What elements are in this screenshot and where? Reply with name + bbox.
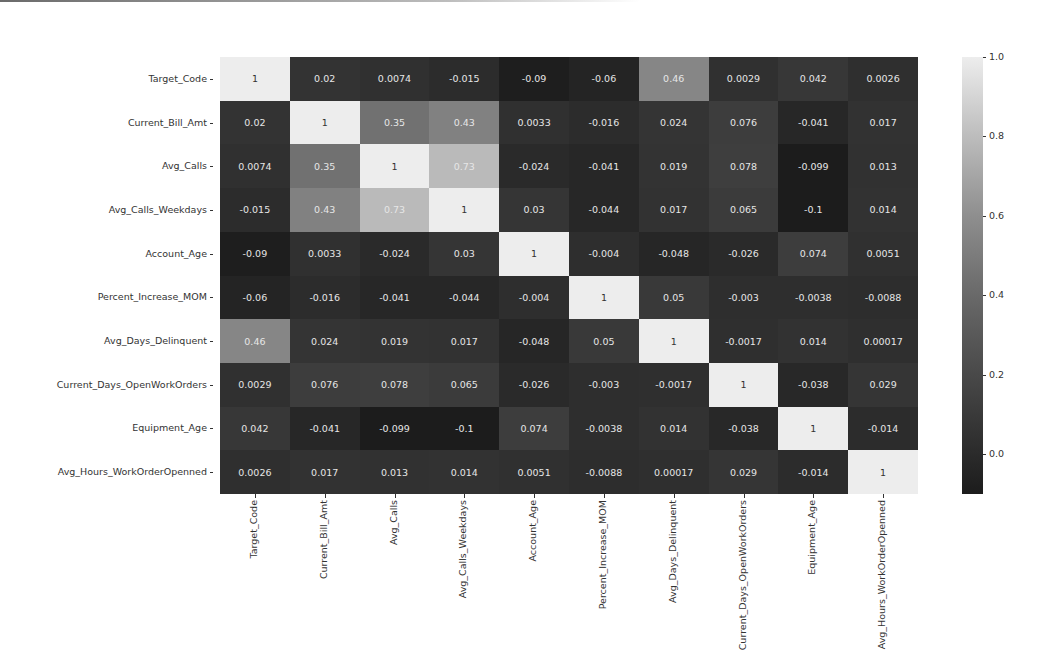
heatmap-cell: -0.014 xyxy=(848,407,918,451)
heatmap-cell: -0.004 xyxy=(499,276,569,320)
x-tick-label: Equipment_Age xyxy=(806,500,817,575)
heatmap-cell: 1 xyxy=(220,57,290,101)
heatmap-cell: 0.014 xyxy=(778,319,848,363)
heatmap-cell: 0.46 xyxy=(639,57,709,101)
heatmap-cell: 0.014 xyxy=(639,407,709,451)
heatmap-cell: 0.029 xyxy=(709,450,779,494)
heatmap-cell: -0.003 xyxy=(709,276,779,320)
x-tick-label: Current_Bill_Amt xyxy=(318,500,329,579)
heatmap-cell: 0.0033 xyxy=(499,101,569,145)
heatmap-cell: 0.078 xyxy=(360,363,430,407)
heatmap-cell: 1 xyxy=(778,407,848,451)
heatmap-cell: 0.0033 xyxy=(290,232,360,276)
heatmap-cell: -0.038 xyxy=(778,363,848,407)
x-axis-labels: Target_CodeCurrent_Bill_AmtAvg_CallsAvg_… xyxy=(220,494,918,671)
colorbar-tick-label: 0.4 xyxy=(983,289,1004,301)
heatmap-cell: 0.05 xyxy=(639,276,709,320)
heatmap-cell: -0.0017 xyxy=(639,363,709,407)
heatmap-cell: 0.065 xyxy=(709,188,779,232)
heatmap-cell: 1 xyxy=(569,276,639,320)
heatmap-cell: 0.014 xyxy=(429,450,499,494)
heatmap-cell: 0.076 xyxy=(290,363,360,407)
heatmap-cell: 0.0051 xyxy=(848,232,918,276)
heatmap-cell: 0.024 xyxy=(639,101,709,145)
heatmap-cell: 0.042 xyxy=(220,407,290,451)
heatmap-cell: -0.09 xyxy=(499,57,569,101)
x-tick-label: Avg_Hours_WorkOrderOpenned xyxy=(876,500,887,649)
heatmap-cell: -0.1 xyxy=(778,188,848,232)
heatmap-cell: 1 xyxy=(639,319,709,363)
top-border-line xyxy=(0,0,640,2)
heatmap-cell: -0.024 xyxy=(499,144,569,188)
heatmap-cell: 0.017 xyxy=(429,319,499,363)
heatmap-cell: 0.042 xyxy=(778,57,848,101)
y-tick-label: Current_Bill_Amt xyxy=(128,116,213,130)
heatmap-cell: -0.041 xyxy=(360,276,430,320)
heatmap-cell: -0.016 xyxy=(290,276,360,320)
heatmap-cell: 0.0051 xyxy=(499,450,569,494)
heatmap-cell: -0.044 xyxy=(429,276,499,320)
x-tick-label: Current_Days_OpenWorkOrders xyxy=(737,500,748,650)
tick-mark xyxy=(325,494,326,498)
heatmap-cell: 0.074 xyxy=(778,232,848,276)
heatmap-cell: 0.35 xyxy=(360,101,430,145)
heatmap-cell: -0.026 xyxy=(709,232,779,276)
heatmap-cell: -0.06 xyxy=(569,57,639,101)
correlation-heatmap: 10.020.0074-0.015-0.09-0.060.460.00290.0… xyxy=(220,57,918,494)
tick-mark xyxy=(604,494,605,498)
x-tick-label: Avg_Calls xyxy=(388,500,399,545)
tick-mark xyxy=(674,494,675,498)
y-tick-label: Avg_Days_Delinquent xyxy=(104,334,213,348)
heatmap-cell: 0.074 xyxy=(499,407,569,451)
heatmap-cell: -0.041 xyxy=(290,407,360,451)
heatmap-cell: 0.019 xyxy=(639,144,709,188)
heatmap-cell: 0.05 xyxy=(569,319,639,363)
heatmap-cell: -0.06 xyxy=(220,276,290,320)
heatmap-cell: 0.076 xyxy=(709,101,779,145)
heatmap-cell: -0.041 xyxy=(569,144,639,188)
heatmap-cell: -0.041 xyxy=(778,101,848,145)
heatmap-cell: -0.099 xyxy=(360,407,430,451)
tick-mark xyxy=(813,494,814,498)
heatmap-cell: 0.013 xyxy=(360,450,430,494)
heatmap-cell: -0.0038 xyxy=(569,407,639,451)
heatmap-cell: 0.017 xyxy=(848,101,918,145)
y-tick-label: Avg_Calls_Weekdays xyxy=(109,203,213,217)
colorbar xyxy=(962,57,983,494)
y-tick-label: Avg_Calls xyxy=(162,159,213,173)
heatmap-cell: 0.43 xyxy=(290,188,360,232)
heatmap-cell: 0.43 xyxy=(429,101,499,145)
heatmap-cell: 0.017 xyxy=(639,188,709,232)
heatmap-cell: 0.0029 xyxy=(220,363,290,407)
heatmap-cell: -0.026 xyxy=(499,363,569,407)
heatmap-cell: 0.078 xyxy=(709,144,779,188)
colorbar-tick-label: 1.0 xyxy=(983,51,1004,63)
heatmap-cell: 0.35 xyxy=(290,144,360,188)
heatmap-cell: 0.029 xyxy=(848,363,918,407)
tick-mark xyxy=(534,494,535,498)
heatmap-cell: 0.73 xyxy=(429,144,499,188)
tick-mark xyxy=(255,494,256,498)
heatmap-cell: -0.016 xyxy=(569,101,639,145)
tick-mark xyxy=(744,494,745,498)
heatmap-cell: 0.065 xyxy=(429,363,499,407)
heatmap-cell: 0.00017 xyxy=(639,450,709,494)
heatmap-cell: -0.015 xyxy=(429,57,499,101)
x-tick-label: Percent_Increase_MOM xyxy=(597,500,608,609)
tick-mark xyxy=(464,494,465,498)
tick-mark xyxy=(883,494,884,498)
x-tick-label: Avg_Days_Delinquent xyxy=(667,500,678,603)
x-tick-label: Account_Age xyxy=(527,500,538,561)
heatmap-cell: 0.00017 xyxy=(848,319,918,363)
heatmap-cell: 1 xyxy=(290,101,360,145)
heatmap-cell: 0.014 xyxy=(848,188,918,232)
heatmap-cell: -0.015 xyxy=(220,188,290,232)
y-tick-label: Target_Code xyxy=(149,72,213,86)
heatmap-cell: -0.024 xyxy=(360,232,430,276)
heatmap-cell: -0.099 xyxy=(778,144,848,188)
heatmap-cell: -0.003 xyxy=(569,363,639,407)
heatmap-cell: 0.03 xyxy=(429,232,499,276)
heatmap-cell: -0.0017 xyxy=(709,319,779,363)
y-tick-label: Percent_Increase_MOM xyxy=(98,290,213,304)
heatmap-cell: -0.1 xyxy=(429,407,499,451)
